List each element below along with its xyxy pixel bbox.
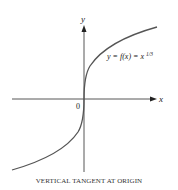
cube-root-curve <box>12 27 157 170</box>
y-axis-arrow-icon <box>82 25 87 32</box>
y-axis-label: y <box>80 14 85 24</box>
x-axis-label: x <box>158 94 163 104</box>
origin-label: 0 <box>76 102 80 111</box>
equation-exponent: 1/3 <box>146 51 153 57</box>
equation-base: y = f(x) = x <box>106 52 144 61</box>
x-axis-arrow-icon <box>150 97 157 102</box>
figure-caption: VERTICAL TANGENT AT ORIGIN <box>0 177 178 185</box>
cube-root-diagram: y x 0 y = f(x) = x 1/3 <box>0 0 178 190</box>
curve-equation-label: y = f(x) = x 1/3 <box>106 51 153 62</box>
